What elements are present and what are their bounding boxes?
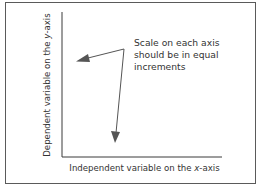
x-axis-label-suffix: -axis — [199, 163, 219, 173]
annotation-line-3: increments — [134, 61, 254, 73]
y-axis-label-prefix: Dependent variable on the — [42, 39, 52, 157]
annotation-line-2: should be in equal — [134, 49, 254, 61]
scale-annotation: Scale on each axis should be in equal in… — [134, 37, 254, 73]
x-axis-label-prefix: Independent variable on the — [69, 163, 194, 173]
y-axis-label-var: y — [42, 34, 52, 39]
annotation-line-1: Scale on each axis — [134, 37, 254, 49]
y-axis-label-suffix: -axis — [42, 13, 52, 33]
y-axis-label: Dependent variable on the y-axis — [41, 10, 53, 160]
x-axis-label: Independent variable on the x-axis — [62, 163, 227, 173]
arrow-to-x-axis-icon — [111, 49, 124, 143]
arrow-to-y-axis-icon — [76, 49, 124, 62]
